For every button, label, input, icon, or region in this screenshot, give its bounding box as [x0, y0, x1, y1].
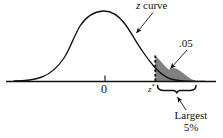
largest-label-line2: 5%	[163, 122, 219, 134]
largest-label-line1: Largest	[175, 109, 208, 121]
z-curve-label-text: curve	[140, 0, 167, 11]
z-curve-label: z curve	[136, 0, 167, 12]
area-label-arrow	[171, 50, 188, 69]
center-tick-label: 0	[101, 83, 107, 96]
largest-5-percent-brace	[158, 86, 197, 93]
area-label: .05	[179, 38, 193, 50]
z-curve-arrow	[137, 13, 154, 34]
critical-value-label: z*	[148, 83, 155, 94]
largest-5-percent-label: Largest 5%	[163, 110, 219, 133]
z-curve-figure: z curve .05 0 z* Largest 5%	[0, 0, 223, 138]
critical-value-superscript: *	[152, 82, 156, 90]
